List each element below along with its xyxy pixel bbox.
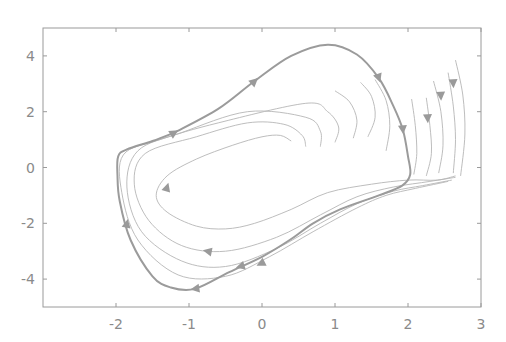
x-tick-label: 2 bbox=[404, 316, 413, 332]
y-tick-label: -2 bbox=[21, 215, 35, 231]
trajectory-outer-5 bbox=[456, 60, 465, 176]
trajectory-inner-6 bbox=[361, 82, 376, 136]
x-tick-label: 0 bbox=[258, 316, 267, 332]
x-tick-label: -1 bbox=[182, 316, 196, 332]
arrow-icon bbox=[423, 114, 432, 123]
arrow-icon bbox=[398, 125, 407, 134]
trajectories bbox=[117, 45, 465, 290]
trajectory-outer-4 bbox=[448, 73, 455, 174]
arrow-icon bbox=[373, 73, 382, 83]
arrow-icon bbox=[122, 219, 131, 229]
x-tick-label: 1 bbox=[331, 316, 340, 332]
arrow-icon bbox=[190, 284, 200, 293]
y-tick-label: 0 bbox=[26, 160, 35, 176]
arrow-icon bbox=[162, 183, 171, 193]
trajectory-inner-2 bbox=[134, 122, 455, 252]
y-tick-label: 4 bbox=[26, 48, 35, 64]
limit-cycle bbox=[117, 45, 410, 290]
x-tick-label: -2 bbox=[109, 316, 123, 332]
y-tick-label: 2 bbox=[26, 104, 35, 120]
trajectory-outer-1 bbox=[412, 99, 417, 174]
arrow-icon bbox=[248, 78, 258, 87]
y-tick-label: -4 bbox=[21, 271, 35, 287]
arrow-icon bbox=[203, 248, 213, 257]
trajectory-inner-7 bbox=[375, 80, 390, 151]
trajectory-outer-2 bbox=[426, 98, 431, 176]
phase-portrait-chart: -2-10123 -4-2024 bbox=[0, 0, 506, 342]
trajectory-inner-1 bbox=[156, 135, 455, 229]
x-tick-label: 3 bbox=[477, 316, 486, 332]
